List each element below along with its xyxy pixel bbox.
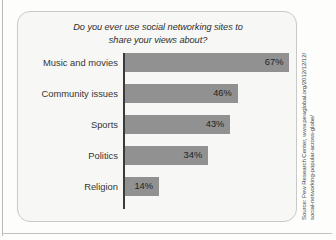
bar-value-label: 43%	[206, 115, 225, 134]
bar-track: 46%	[125, 84, 238, 103]
bar-category-label: Politics	[0, 146, 118, 165]
source-line-1: Source: Pew Research Center, www.pewglob…	[300, 12, 308, 220]
bar-row: Music and movies 67%	[18, 53, 298, 72]
bar-category-label: Sports	[0, 115, 118, 134]
bar-track: 14%	[125, 177, 159, 196]
scan-edge-line-bottom	[2, 233, 332, 234]
bar-row: Politics 34%	[18, 146, 298, 165]
bar-category-label: Religion	[0, 177, 118, 196]
bar-value-label: 14%	[134, 177, 153, 196]
bar-category-label: Music and movies	[0, 53, 118, 72]
bar-category-label: Community issues	[0, 84, 118, 103]
bar-track: 34%	[125, 146, 209, 165]
bar-value-label: 46%	[213, 84, 232, 103]
chart-figure-frame: Do you ever use social networking sites …	[17, 11, 297, 222]
plot-area: Music and movies 67% Community issues 46…	[18, 52, 298, 220]
chart-title-line-2: share your views about?	[109, 35, 207, 45]
source-citation: Source: Pew Research Center, www.pewglob…	[300, 12, 322, 220]
bar-track: 67%	[125, 53, 290, 72]
bar-row: Community issues 46%	[18, 84, 298, 103]
bar-row: Religion 14%	[18, 177, 298, 196]
bar-row: Sports 43%	[18, 115, 298, 134]
source-line-2: social-networking-popular-across-globe/	[308, 12, 316, 220]
bar-value-label: 34%	[184, 146, 203, 165]
chart-title-line-1: Do you ever use social networking sites …	[73, 22, 242, 32]
bar-value-label: 67%	[265, 53, 284, 72]
bar-track: 43%	[125, 115, 231, 134]
chart-title: Do you ever use social networking sites …	[32, 21, 284, 47]
page-background: Do you ever use social networking sites …	[0, 0, 336, 240]
